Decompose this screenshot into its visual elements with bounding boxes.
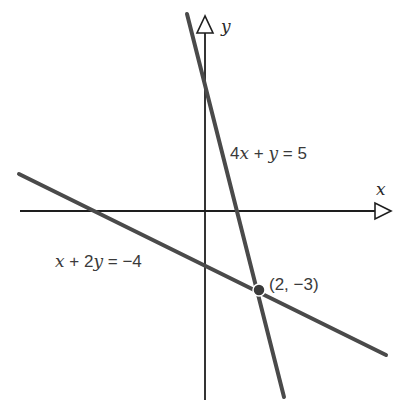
y-axis-arrow-icon	[197, 16, 213, 33]
equation-label-line2: x + 2y = −4	[55, 251, 142, 271]
equation-label-line1: 4x + y = 5	[230, 143, 307, 163]
x-axis-arrow-icon	[375, 203, 391, 219]
x-axis-label: x	[376, 179, 386, 199]
intersection-point: (2, −3)	[253, 275, 319, 296]
line-4x-plus-y-eq-5	[187, 14, 284, 397]
intersection-dot-icon	[253, 284, 265, 296]
intersection-label: (2, −3)	[269, 275, 319, 294]
y-axis-label: y	[220, 16, 231, 36]
coordinate-plane-diagram: y x 4x + y = 5 x + 2y = −4 (2, −3)	[0, 0, 403, 414]
